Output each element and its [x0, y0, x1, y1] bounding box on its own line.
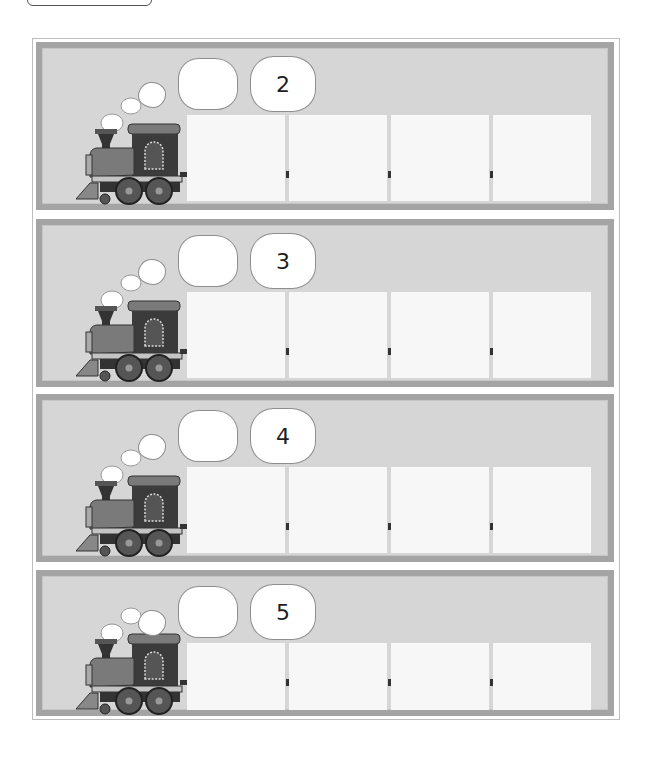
carriage-box-1[interactable]	[187, 467, 285, 553]
train-row-2: 3	[36, 219, 614, 387]
carriage-box-1[interactable]	[187, 292, 285, 378]
blank-number-cloud[interactable]	[178, 58, 238, 110]
smoke-cloud-icon	[138, 82, 166, 108]
carriage-link	[388, 348, 391, 355]
number-cloud: 2	[250, 56, 316, 112]
train-row-3: 4	[36, 394, 614, 562]
number-cloud: 4	[250, 408, 316, 464]
carriage-link	[490, 171, 493, 178]
smoke-cloud-icon	[138, 259, 166, 285]
smoke-cloud-icon	[138, 610, 166, 636]
carriage-boxes	[187, 292, 595, 378]
blank-number-cloud[interactable]	[178, 235, 238, 287]
carriage-box-3[interactable]	[391, 292, 489, 378]
carriage-box-3[interactable]	[391, 467, 489, 553]
carriage-boxes	[187, 467, 595, 553]
carriage-link	[286, 171, 289, 178]
carriage-box-4[interactable]	[493, 467, 591, 553]
carriage-link	[286, 523, 289, 530]
steam-locomotive-icon	[72, 93, 192, 208]
carriage-link	[388, 523, 391, 530]
carriage-link	[286, 348, 289, 355]
steam-locomotive-icon	[72, 445, 192, 560]
train-row-1: 2	[36, 42, 614, 210]
carriage-box-1[interactable]	[187, 643, 285, 710]
carriage-boxes	[187, 115, 595, 201]
carriage-link	[286, 679, 289, 686]
carriage-box-4[interactable]	[493, 643, 591, 710]
number-cloud: 5	[250, 584, 316, 640]
steam-locomotive-icon	[72, 603, 192, 718]
carriage-box-4[interactable]	[493, 115, 591, 201]
carriage-box-1[interactable]	[187, 115, 285, 201]
smoke-cloud-icon	[138, 434, 166, 460]
carriage-box-2[interactable]	[289, 115, 387, 201]
number-cloud: 3	[250, 233, 316, 289]
blank-number-cloud[interactable]	[178, 410, 238, 462]
top-tab-outline	[27, 0, 152, 6]
carriage-boxes	[187, 643, 595, 710]
carriage-link	[388, 679, 391, 686]
carriage-link	[490, 348, 493, 355]
carriage-link	[490, 679, 493, 686]
blank-number-cloud[interactable]	[178, 586, 238, 638]
carriage-link	[388, 171, 391, 178]
worksheet-frame: 2	[32, 38, 620, 720]
carriage-box-2[interactable]	[289, 643, 387, 710]
carriage-box-3[interactable]	[391, 115, 489, 201]
steam-locomotive-icon	[72, 270, 192, 385]
carriage-box-3[interactable]	[391, 643, 489, 710]
carriage-box-2[interactable]	[289, 467, 387, 553]
carriage-box-2[interactable]	[289, 292, 387, 378]
train-row-4: 5	[36, 570, 614, 716]
carriage-link	[490, 523, 493, 530]
carriage-box-4[interactable]	[493, 292, 591, 378]
